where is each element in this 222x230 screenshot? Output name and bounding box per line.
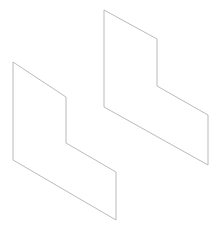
drawing-canvas — [0, 0, 222, 230]
canvas-background — [0, 0, 222, 230]
vector-drawing — [0, 0, 222, 230]
